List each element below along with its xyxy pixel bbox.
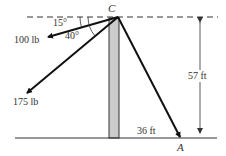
angle-40-label: 40°: [65, 31, 79, 41]
point-a-label: A: [177, 142, 184, 153]
force-100lb-label: 100 lb: [14, 35, 39, 45]
cable-ca-arrow: [118, 17, 180, 137]
point-c-label: C: [108, 3, 115, 14]
angle-arc-40: [88, 17, 95, 36]
horizontal-36ft-label: 36 ft: [137, 126, 156, 136]
force-175lb-arrow: [27, 17, 118, 93]
angle-arc-15: [80, 17, 81, 27]
force-175lb-label: 175 lb: [13, 97, 38, 107]
height-57ft-label: 57 ft: [188, 70, 207, 82]
pole: [109, 18, 119, 138]
angle-15-label: 15°: [53, 18, 67, 28]
